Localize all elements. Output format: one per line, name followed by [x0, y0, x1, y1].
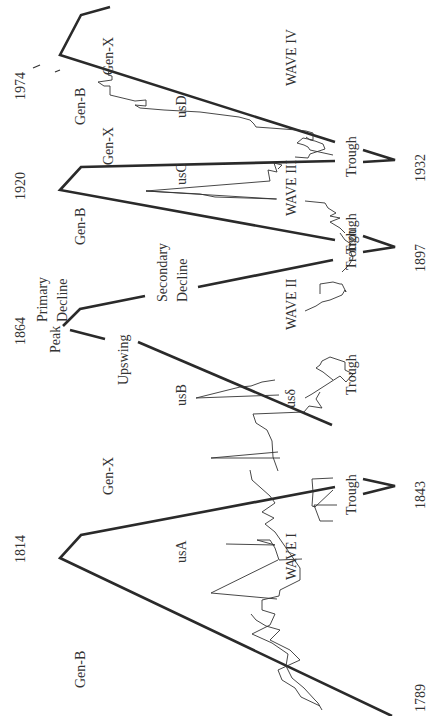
series-usC-lower [305, 201, 345, 233]
year-1897: 1897 [413, 244, 428, 272]
trough-label-1843a: Trough [344, 354, 359, 395]
wave-label-1: WAVE I [284, 533, 299, 580]
wave-2-primary-decline [63, 296, 145, 326]
series-label-usB: usB [174, 384, 189, 406]
series-usD [104, 86, 333, 155]
gen-x-label-3: Gen-X [101, 127, 116, 165]
phase-primary: Primary [35, 277, 50, 322]
series-label-usD: usD [174, 95, 189, 118]
wave-label-3: WAVE III [284, 160, 299, 216]
phase-upswing: Upswing [116, 334, 131, 385]
trough-label-1932: Trough [344, 136, 359, 177]
series-usA-front [211, 560, 278, 599]
trough-1897-marker [363, 236, 395, 252]
year-1920: 1920 [13, 172, 28, 200]
series-usA-spike [211, 452, 280, 458]
phase-secondary: Secondary [155, 243, 170, 302]
trough-1843-marker [363, 479, 395, 494]
trough-1932-marker [363, 150, 395, 162]
wave-label-2: WAVE II [284, 278, 299, 330]
series-usdelta [312, 478, 333, 507]
wave-2-upswing-top [70, 330, 105, 339]
phase-peak: Peak [48, 326, 63, 353]
series-usB-spike [196, 380, 279, 398]
year-1814: 1814 [13, 535, 28, 563]
series-usA-lower [250, 470, 322, 710]
trough-label-1897b: Trough [344, 229, 359, 270]
series-usC-top [146, 163, 282, 191]
series-usB-ridge [305, 282, 346, 311]
gen-b-label-4: Gen-B [73, 88, 88, 125]
year-1789: 1789 [413, 684, 428, 712]
year-1974: 1974 [13, 72, 28, 100]
gen-b-label-1: Gen-B [73, 651, 88, 688]
wave-2-upswing [138, 342, 332, 425]
gen-x-label-4: Gen-X [101, 37, 116, 75]
gen-b-label-3: Gen-B [73, 208, 88, 245]
year-1864: 1864 [13, 317, 28, 345]
series-usC-spike [146, 191, 277, 199]
year-1932: 1932 [413, 154, 428, 182]
series-label-usdelta: usδ [283, 389, 298, 408]
phase-primary-decline: Decline [55, 278, 70, 322]
tick-1974b [55, 70, 60, 72]
trough-label-1843b: Trough [344, 474, 359, 515]
phase-secondary-decline: Decline [175, 258, 190, 302]
gen-x-label-1: Gen-X [101, 457, 116, 495]
series-usA-tail [251, 614, 320, 706]
year-1843: 1843 [413, 481, 428, 509]
tick-1974 [33, 65, 40, 68]
wave-label-4: WAVE IV [284, 29, 299, 86]
series-usdelta-2 [314, 505, 337, 521]
series-label-usA: usA [174, 540, 189, 563]
series-label-usC: usC [174, 163, 189, 185]
long-wave-diagram: 1974 1920 1864 1814 1932 1897 1843 1789 … [0, 0, 442, 716]
series-usC-tail [295, 137, 325, 158]
wave-1-envelope [60, 487, 392, 716]
wave-2-secondary-decline [198, 260, 333, 287]
